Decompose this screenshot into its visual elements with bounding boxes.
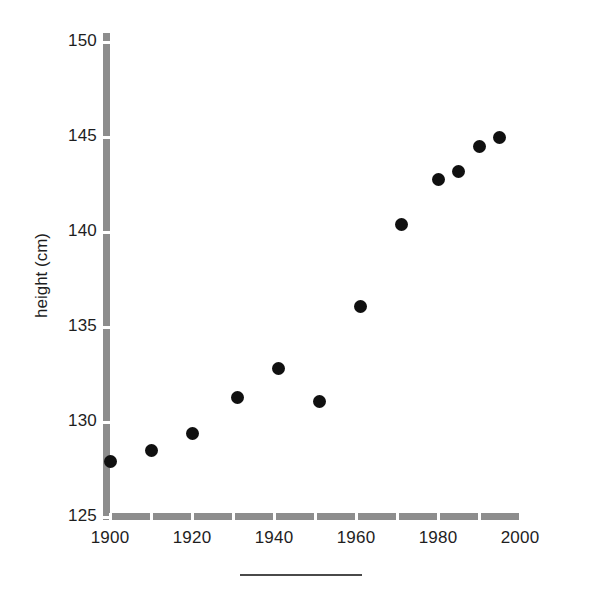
x-tick-mark [191,513,194,520]
x-tick-label: 2000 [490,528,550,548]
x-tick-mark [273,513,276,520]
data-point [452,165,465,178]
y-tick-label: 150 [68,31,97,51]
data-point [104,455,117,468]
x-tick-mark [478,513,481,520]
x-tick-mark [396,513,399,520]
y-tick-mark [103,41,110,44]
x-axis-spine [103,513,522,520]
x-tick-mark [109,513,112,520]
data-point [473,140,486,153]
y-tick-mark [103,231,110,234]
data-point [145,444,158,457]
y-axis-spine [103,33,110,520]
x-tick-mark [314,513,317,520]
y-tick-mark [103,326,110,329]
data-point [272,362,285,375]
y-tick-mark [103,421,110,424]
x-tick-mark [355,513,358,520]
data-point [313,395,326,408]
figure-container: height (cm) 125130135140145150 190019201… [0,0,595,595]
data-point [395,218,408,231]
y-axis-title: height (cm) [32,232,52,317]
x-tick-mark [150,513,153,520]
data-point [231,391,244,404]
x-tick-label: 1980 [408,528,468,548]
data-point [432,173,445,186]
y-tick-label: 145 [68,126,97,146]
caption-rule [240,574,362,576]
x-tick-mark [437,513,440,520]
x-tick-mark [519,513,522,520]
y-tick-label: 125 [68,506,97,526]
y-tick-label: 135 [68,316,97,336]
y-tick-label: 140 [68,221,97,241]
x-tick-label: 1900 [80,528,140,548]
x-tick-label: 1920 [162,528,222,548]
data-point [493,131,506,144]
x-tick-mark [232,513,235,520]
x-tick-label: 1960 [326,528,386,548]
y-tick-label: 130 [68,411,97,431]
data-point [354,300,367,313]
x-tick-label: 1940 [244,528,304,548]
data-point [186,427,199,440]
y-tick-mark [103,136,110,139]
